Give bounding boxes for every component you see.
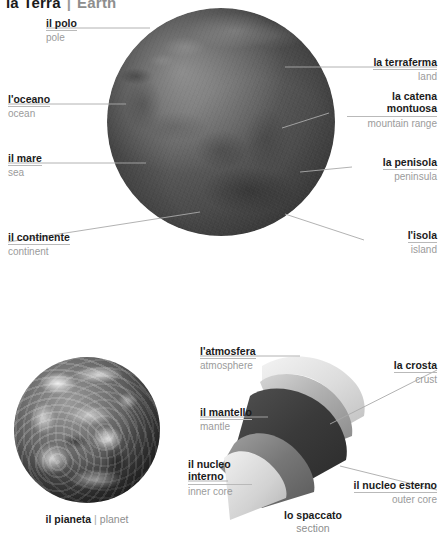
caption-section-italian: lo spaccato [258, 509, 368, 522]
label-mantle-rule [200, 419, 252, 420]
caption-section: lo spaccato section [258, 509, 368, 534]
label-crust: la crosta crust [394, 359, 437, 386]
leader-lines-bottom [0, 0, 445, 534]
caption-section-english: section [258, 522, 368, 534]
label-crust-english: crust [394, 374, 437, 386]
label-outer-core-rule [354, 492, 437, 493]
label-crust-italian: la crosta [394, 359, 437, 371]
label-atmosphere-rule [200, 358, 256, 359]
label-outer-core: il nucleo esterno outer core [354, 479, 437, 506]
label-inner-core-english: inner core [188, 486, 252, 498]
label-mantle-english: mantle [200, 421, 252, 433]
label-crust-rule [394, 372, 437, 373]
earth-infographic-page: la Terra|Earth il polo pole l'ocean [0, 0, 445, 534]
label-atmosphere-english: atmosphere [200, 360, 256, 372]
label-outer-core-italian: il nucleo esterno [354, 479, 437, 491]
label-inner-core: il nucleo interno inner core [188, 458, 252, 498]
label-outer-core-english: outer core [354, 494, 437, 506]
label-inner-core-italian: il nucleo interno [188, 458, 252, 483]
label-atmosphere-italian: l'atmosfera [200, 345, 256, 357]
label-inner-core-rule [188, 484, 252, 485]
label-mantle-italian: il mantello [200, 406, 252, 418]
label-atmosphere: l'atmosfera atmosphere [200, 345, 256, 372]
label-mantle: il mantello mantle [200, 406, 252, 433]
